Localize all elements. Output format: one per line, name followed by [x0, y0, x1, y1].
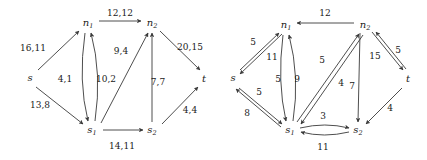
edge-label-right-0: 5	[250, 38, 256, 47]
redge-n1-s1	[281, 35, 286, 121]
edge-label-left-1: 13,8	[30, 101, 50, 110]
node-s2-right: s2	[353, 125, 362, 135]
redge-n2-s1	[301, 35, 363, 124]
redge-t-s2	[366, 88, 402, 124]
node-s-right: s	[230, 73, 235, 83]
edge-label-right-7: 5	[319, 56, 325, 65]
edge-label-left-5: 9,4	[114, 47, 128, 56]
edge-label-right-12: 4	[387, 104, 393, 113]
edge-label-right-1: 11	[266, 53, 277, 62]
node-s1-right: s1	[285, 125, 294, 135]
edge-label-right-13: 3	[320, 112, 326, 121]
node-n2-left: n2	[147, 18, 158, 28]
node-n2-right: n2	[360, 20, 371, 30]
node-s-left: s	[27, 73, 32, 83]
edge-label-right-2: 5	[256, 88, 262, 97]
redge-n2-s2	[358, 33, 360, 122]
edge-label-left-4: 10,2	[96, 75, 116, 84]
edge-label-left-0: 16,11	[20, 44, 46, 53]
edge-label-right-3: 8	[244, 109, 250, 118]
edge-label-right-11: 5	[395, 46, 401, 55]
edge-label-left-2: 12,12	[107, 9, 133, 18]
edge-label-right-6: 9	[294, 75, 300, 84]
edge-label-right-14: 11	[317, 143, 328, 152]
edge-label-left-8: 4,4	[183, 106, 197, 115]
edge-label-right-8: 4	[338, 79, 344, 88]
redge-s1-s2	[300, 125, 349, 128]
diagram-canvas: s n1 n2 t s1 s2 16,11 13,8 12,12 4,1 10,…	[0, 0, 427, 160]
node-s1-left: s1	[87, 125, 96, 135]
edge-label-right-5: 5	[275, 75, 281, 84]
edge-label-right-9: 7	[349, 82, 355, 91]
node-t-left: t	[202, 74, 206, 84]
node-n1-left: n1	[83, 18, 94, 28]
redge-t-n2	[376, 32, 406, 69]
node-s2-left: s2	[147, 125, 156, 135]
edge-label-left-7: 7,7	[151, 78, 165, 87]
redge-s1-n2	[297, 34, 359, 122]
edge-label-left-3: 4,1	[58, 75, 72, 84]
edge-label-right-4: 12	[319, 9, 330, 18]
edge-label-left-9: 20,15	[177, 43, 203, 52]
edge-label-right-10: 15	[369, 52, 380, 61]
redge-s2-s1	[301, 132, 349, 135]
node-n1-right: n1	[281, 20, 292, 30]
edge-label-left-6: 14,11	[109, 142, 135, 151]
node-t-right: t	[406, 74, 410, 84]
edge-n1-s1	[82, 33, 88, 121]
